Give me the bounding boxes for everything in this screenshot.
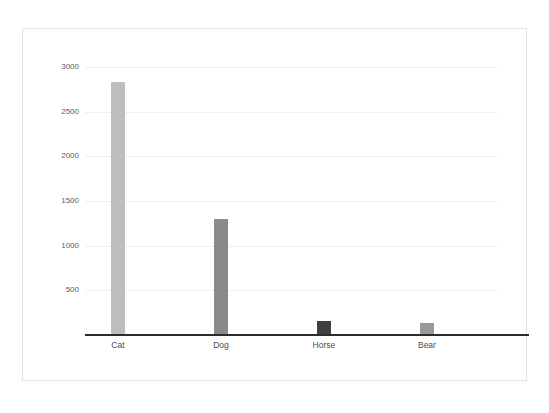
gridline-3000	[85, 67, 497, 68]
y-tick-label-500: 500	[66, 286, 79, 294]
y-tick-label-1500: 1500	[61, 197, 79, 205]
y-tick-label-3000: 3000	[61, 63, 79, 71]
y-tick-label-2000: 2000	[61, 152, 79, 160]
y-axis-tick-labels: 50010001500200025003000	[23, 49, 79, 335]
chart-frame: 50010001500200025003000 CatDogHorseBear	[22, 28, 527, 381]
bar-cat[interactable]	[111, 82, 125, 335]
bar-horse[interactable]	[317, 321, 331, 335]
bar-dog[interactable]	[214, 219, 228, 335]
x-tick-label-dog: Dog	[213, 341, 229, 350]
y-tick-label-2500: 2500	[61, 108, 79, 116]
x-tick-label-bear: Bear	[418, 341, 436, 350]
gridline-500	[85, 290, 497, 291]
gridline-1500	[85, 201, 497, 202]
x-axis-line	[85, 334, 529, 336]
x-tick-label-horse: Horse	[313, 341, 336, 350]
y-tick-label-1000: 1000	[61, 242, 79, 250]
gridline-1000	[85, 246, 497, 247]
x-axis-tick-labels: CatDogHorseBear	[85, 341, 497, 361]
gridline-2500	[85, 112, 497, 113]
gridline-2000	[85, 156, 497, 157]
x-tick-label-cat: Cat	[111, 341, 124, 350]
plot-area	[85, 49, 497, 335]
